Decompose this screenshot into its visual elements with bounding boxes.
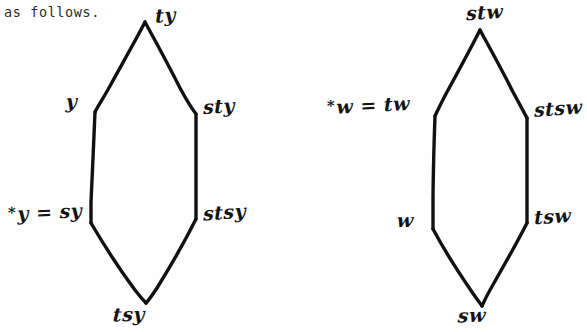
left-label-lower-right: stsy <box>203 201 246 223</box>
left-lattice-shape <box>91 22 196 303</box>
left-edge-lower-right-to-bottom <box>146 219 196 303</box>
left-label-top: ty <box>155 5 176 25</box>
left-label-upper-right: sty <box>203 96 235 117</box>
right-label-lower-left: w <box>396 211 414 230</box>
star-icon: * <box>327 97 336 115</box>
right-label-upper-right: stsw <box>534 97 583 119</box>
left-edge-lower-left-to-bottom <box>91 223 146 303</box>
left-edge-left-side <box>91 112 95 223</box>
left-label-bottom: tsy <box>112 305 145 325</box>
star-icon: * <box>8 204 17 222</box>
right-label-bottom: sw <box>457 306 486 326</box>
right-label-upper-left: *w = tw <box>327 94 410 117</box>
right-edge-lower-left-to-bottom <box>433 229 482 306</box>
right-label-lower-right: tsw <box>534 206 572 228</box>
right-edge-left-side <box>433 116 435 229</box>
right-lattice-shape <box>433 30 527 306</box>
right-edge-lower-right-to-bottom <box>482 223 527 306</box>
right-label-top: stw <box>466 2 504 24</box>
figure-root: as follows. ty y sty *y = sy stsy tsy st… <box>0 0 587 332</box>
left-label-lower-left: *y = sy <box>8 201 83 224</box>
right-edge-top-to-upper-left <box>435 30 480 116</box>
left-edge-top-to-upper-right <box>145 22 196 114</box>
right-edge-top-to-upper-right <box>480 30 527 118</box>
left-label-upper-left: y <box>65 92 78 111</box>
left-edge-top-to-upper-left <box>95 22 145 112</box>
lattice-diagrams <box>0 0 587 332</box>
